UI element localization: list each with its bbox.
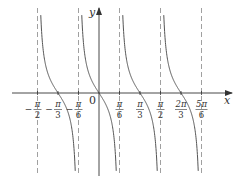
x-tick-label: π3 xyxy=(136,91,144,120)
x-axis-label: x xyxy=(224,94,231,107)
x-ticks: π2−π3−π6−π6π3π22π35π6 xyxy=(25,91,208,120)
svg-text:2: 2 xyxy=(158,110,163,120)
svg-text:π: π xyxy=(116,99,123,109)
svg-text:π: π xyxy=(34,99,41,109)
svg-text:2: 2 xyxy=(35,110,40,120)
origin-label: 0 xyxy=(89,94,96,107)
x-tick-label: π2 xyxy=(157,91,165,120)
x-tick-label: 5π6 xyxy=(196,91,208,120)
svg-text:π: π xyxy=(157,99,164,109)
svg-text:6: 6 xyxy=(76,110,81,120)
x-tick-label: π6− xyxy=(66,91,83,120)
svg-text:−: − xyxy=(66,104,74,114)
svg-text:π: π xyxy=(75,99,82,109)
svg-text:2π: 2π xyxy=(175,99,187,109)
svg-text:3: 3 xyxy=(178,110,183,120)
svg-text:6: 6 xyxy=(117,110,122,120)
svg-text:5π: 5π xyxy=(196,99,207,109)
y-axis-label: y xyxy=(88,6,96,19)
svg-text:3: 3 xyxy=(55,110,60,120)
svg-text:−: − xyxy=(25,104,33,114)
x-tick-label: 2π3 xyxy=(175,91,188,120)
svg-text:6: 6 xyxy=(199,110,204,120)
svg-text:π: π xyxy=(54,99,61,109)
x-tick-label: π6 xyxy=(116,91,124,120)
x-tick-label: π2− xyxy=(25,91,42,120)
plot-area: π2−π3−π6−π6π3π22π35π6 x y 0 xyxy=(0,0,245,183)
svg-text:−: − xyxy=(45,104,53,114)
svg-text:π: π xyxy=(136,99,143,109)
graph: π2−π3−π6−π6π3π22π35π6 x y 0 xyxy=(0,0,245,183)
svg-text:3: 3 xyxy=(137,110,142,120)
